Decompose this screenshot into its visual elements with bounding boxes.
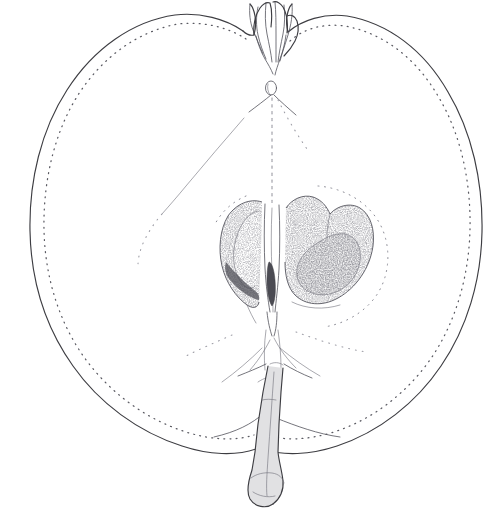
illustration-svg bbox=[0, 0, 501, 519]
apple-section-illustration bbox=[0, 0, 501, 519]
